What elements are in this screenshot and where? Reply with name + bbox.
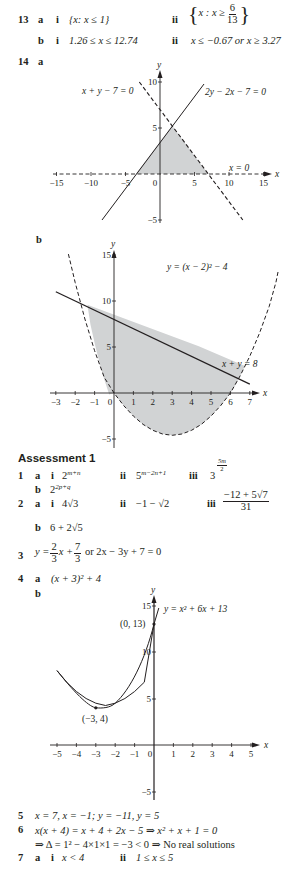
question-number-6: 6	[18, 824, 23, 835]
answer-7a-ii: 1 ≤ x ≤ 5	[136, 852, 173, 863]
parabola-y-eq-x-sq-plus-6x-plus-13	[57, 624, 154, 705]
answer-7a-i: x < 4	[62, 852, 84, 863]
x-tick-label: 5	[249, 749, 254, 759]
x-tick-label: 1	[171, 749, 176, 759]
x-tick-label: −1	[130, 749, 140, 759]
x-tick-label: 4	[229, 749, 234, 759]
subpart-label-7a-ii: ii	[120, 852, 126, 863]
subpart-label-7a-i: i	[51, 852, 54, 863]
y-tick-label: −5	[141, 787, 151, 797]
question-number-7: 7	[18, 852, 23, 863]
x-axis-label: x	[263, 740, 269, 750]
y-axis-arrow-icon	[152, 595, 157, 603]
part-label-7a: a	[35, 852, 40, 863]
x-axis-arrow-icon	[252, 743, 260, 748]
label-point-minus3-4: (−3, 4)	[82, 714, 108, 725]
answer-6-line2: ⇒ Δ = 1² − 4×1×1 = −3 < 0 ⇒ No real solu…	[35, 838, 235, 850]
point-minus3-4	[94, 706, 97, 709]
x-tick-label: −2	[110, 749, 120, 759]
answer-6-line1: x(x + 4) = x + 4 + 2x − 5 ⇒ x² + x + 1 =…	[35, 824, 217, 836]
question-number-5: 5	[18, 810, 23, 821]
x-tick-label: −3	[91, 749, 101, 759]
x-tick-label: −5	[52, 749, 62, 759]
x-tick-label: 0	[148, 749, 153, 759]
point-0-13	[152, 623, 155, 626]
y-tick-label: 5	[147, 694, 152, 704]
x-tick-label: 2	[191, 749, 196, 759]
x-tick-label: −4	[72, 749, 82, 759]
x-tick-label: 3	[210, 749, 215, 759]
y-tick-label: 15	[142, 601, 152, 611]
answer-5: x = 7, x = −1; y = −11, y = 5	[35, 810, 159, 821]
y-tick-label: 10	[142, 647, 152, 657]
label-point-0-13: (0, 13)	[120, 619, 145, 630]
y-axis-label: y	[150, 585, 156, 595]
label-curve-c: y = x² + 6x + 13	[163, 604, 227, 614]
chart-4b: y = x² + 6x + 13 (0, 13) (−3, 4) x y −5 …	[0, 0, 297, 894]
